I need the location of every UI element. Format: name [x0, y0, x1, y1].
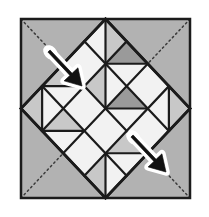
figure-root — [0, 0, 209, 217]
quilt-block-diagram — [0, 0, 209, 217]
